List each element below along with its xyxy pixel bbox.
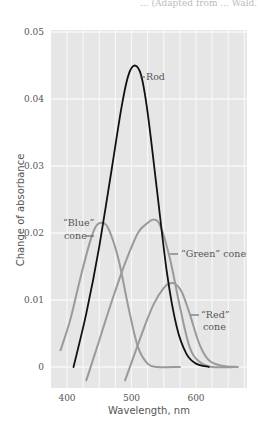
x-axis-label: Wavelength, nm [108, 405, 190, 416]
y-tick-label: 0.02 [24, 228, 44, 238]
caption-partial: ... (Adapted from ... Wald.) [140, 0, 258, 8]
y-tick-label: 0.04 [24, 94, 44, 104]
y-tick-label: 0.01 [24, 295, 44, 305]
annotation-green-cone: “Green” cone [170, 248, 246, 259]
blue-cone-label-2: cone [64, 230, 87, 241]
y-axis-ticks: 00.010.020.030.040.05 [24, 27, 44, 372]
red-cone-label-2: cone [203, 321, 226, 332]
blue-cone-label: “Blue” [63, 217, 95, 228]
y-axis-label: Change of absorbance [15, 154, 26, 267]
x-tick-label: 600 [187, 393, 204, 403]
x-tick-label: 400 [58, 393, 75, 403]
rod-label: Rod [146, 71, 165, 82]
y-tick-label: 0 [38, 362, 44, 372]
y-tick-label: 0.03 [24, 161, 44, 171]
absorbance-chart: ... (Adapted from ... Wald.) 00.010.020.… [0, 0, 258, 433]
green-cone-label: “Green” cone [181, 248, 246, 259]
red-cone-label: “Red” [201, 309, 230, 320]
plot-area [51, 30, 247, 388]
y-tick-label: 0.05 [24, 27, 44, 37]
x-axis-ticks: 400500600 [58, 393, 204, 403]
x-tick-label: 500 [123, 393, 140, 403]
